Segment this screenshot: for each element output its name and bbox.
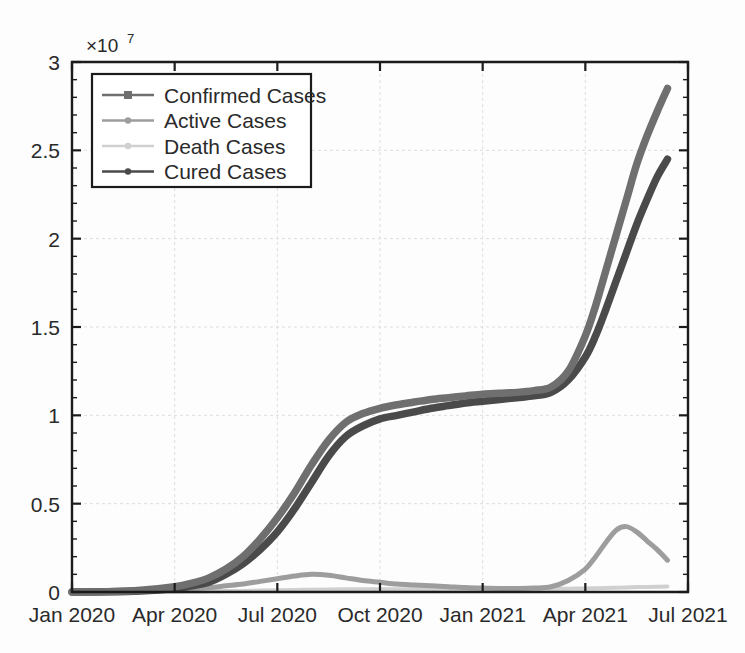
x-tick-label: Oct 2020 (337, 603, 422, 626)
y-tick-label: 3 (48, 51, 60, 74)
y-axis-tick-labels: 00.511.522.53 (31, 51, 60, 604)
y-tick-label: 2 (48, 228, 60, 251)
y-tick-label: 2.5 (31, 139, 60, 162)
y-axis-exponent-label: ×10 7 (86, 31, 134, 56)
x-tick-label: Apr 2021 (543, 603, 628, 626)
line-chart-canvas: 00.511.522.53 Jan 2020Apr 2020Jul 2020Oc… (0, 0, 745, 653)
covid-cases-figure: 00.511.522.53 Jan 2020Apr 2020Jul 2020Oc… (0, 0, 745, 653)
series-line-active-cases (72, 527, 667, 592)
x-tick-label: Jul 2020 (238, 603, 317, 626)
x-tick-label: Jul 2021 (648, 603, 727, 626)
legend-label: Confirmed Cases (164, 84, 326, 107)
x-axis-tick-labels: Jan 2020Apr 2020Jul 2020Oct 2020Jan 2021… (29, 603, 728, 626)
legend-label: Cured Cases (164, 160, 287, 183)
legend-marker-dot (125, 117, 131, 123)
legend-label: Active Cases (164, 109, 287, 132)
exponent-prefix: ×10 (86, 35, 118, 56)
exponent-power: 7 (127, 31, 134, 46)
x-tick-label: Jan 2021 (439, 603, 525, 626)
series-line-cured-cases (72, 159, 667, 592)
y-tick-label: 1.5 (31, 316, 60, 339)
legend-marker-dot (125, 143, 131, 149)
y-tick-label: 0.5 (31, 493, 60, 516)
legend-marker-dot (125, 168, 131, 174)
y-tick-label: 1 (48, 404, 60, 427)
legend-marker-square (124, 91, 132, 99)
y-tick-label: 0 (48, 581, 60, 604)
x-tick-label: Apr 2020 (132, 603, 217, 626)
legend-label: Death Cases (164, 135, 285, 158)
x-tick-label: Jan 2020 (29, 603, 115, 626)
legend[interactable]: Confirmed CasesActive CasesDeath CasesCu… (92, 74, 326, 187)
